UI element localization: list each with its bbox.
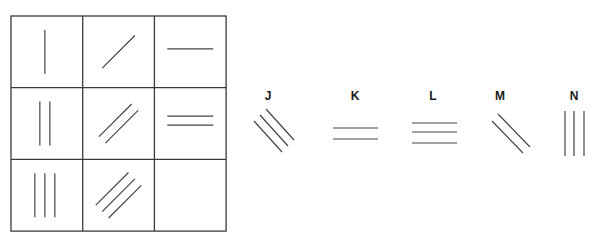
- diagonal-line: [96, 172, 129, 205]
- diagonal-line: [99, 104, 132, 137]
- diagonal-line: [105, 110, 138, 143]
- diagonal-down-line: [492, 121, 523, 153]
- diagonal-line: [102, 179, 135, 212]
- diagonal-line: [109, 185, 142, 218]
- matrix-grid: [11, 16, 226, 231]
- option-j[interactable]: [254, 109, 294, 152]
- grid-cell: [102, 36, 135, 69]
- grid-cell: [35, 173, 55, 217]
- grid-cell: [99, 104, 138, 143]
- option-label-k[interactable]: K: [351, 90, 360, 102]
- diagonal-down-line: [254, 121, 282, 152]
- diagonal-line: [102, 36, 135, 69]
- diagonal-down-line: [260, 115, 288, 146]
- grid-cell: [96, 172, 142, 218]
- option-l[interactable]: [412, 123, 457, 143]
- puzzle-canvas: [0, 0, 601, 240]
- grid-cell: [167, 116, 213, 125]
- option-label-m[interactable]: M: [495, 90, 505, 102]
- diagonal-down-line: [266, 109, 294, 140]
- option-label-n[interactable]: N: [570, 90, 579, 102]
- option-m[interactable]: [492, 114, 530, 153]
- diagonal-down-line: [498, 114, 530, 147]
- option-k[interactable]: [333, 128, 378, 139]
- option-label-j[interactable]: J: [265, 90, 272, 102]
- option-n[interactable]: [565, 111, 584, 156]
- answer-options: [254, 109, 584, 156]
- grid-cell: [40, 102, 50, 146]
- option-label-l[interactable]: L: [429, 90, 436, 102]
